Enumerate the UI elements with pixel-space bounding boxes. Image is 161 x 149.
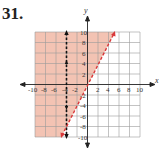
svg-text:2: 2 (82, 71, 86, 79)
svg-text:-6: -6 (51, 86, 57, 94)
svg-text:-4: -4 (62, 86, 68, 94)
svg-text:8: 8 (127, 86, 131, 94)
svg-text:6: 6 (82, 50, 86, 58)
svg-text:2: 2 (96, 86, 100, 94)
svg-text:-6: -6 (80, 113, 86, 121)
svg-text:4: 4 (82, 60, 86, 68)
inequality-graph: x y -10 -8 -6 -4 -2 2 4 6 8 10 10 8 6 4 … (0, 0, 161, 149)
x-axis-label: x (154, 76, 159, 85)
svg-text:6: 6 (117, 86, 121, 94)
y-axis-label: y (83, 6, 88, 15)
svg-text:-8: -8 (80, 123, 86, 131)
svg-text:-10: -10 (78, 134, 88, 142)
svg-text:10: 10 (136, 86, 144, 94)
svg-text:4: 4 (106, 86, 110, 94)
svg-text:-8: -8 (41, 86, 47, 94)
svg-text:-4: -4 (80, 102, 86, 110)
svg-text:-2: -2 (72, 86, 78, 94)
svg-text:10: 10 (80, 29, 88, 37)
svg-text:-10: -10 (28, 86, 38, 94)
svg-text:8: 8 (82, 39, 86, 47)
